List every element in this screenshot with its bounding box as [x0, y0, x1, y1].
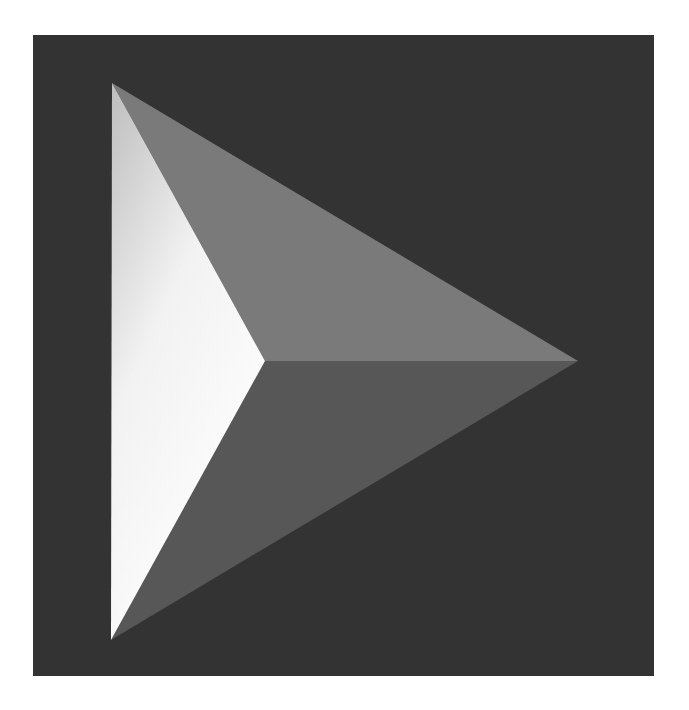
play-pyramid-graphic	[0, 0, 689, 710]
